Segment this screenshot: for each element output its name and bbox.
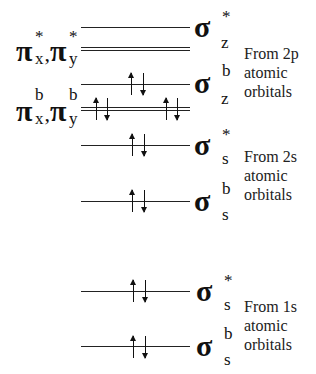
superscript: * (35, 28, 44, 45)
label-sigma-1s-antibonding: σ * s (196, 276, 212, 306)
label-sigma-z-bonding: σ b z (194, 68, 210, 98)
level-sigma-1s-antibonding (81, 291, 190, 292)
sigma-symbol: σ (196, 274, 212, 307)
electron-down-arrow-icon (143, 73, 144, 95)
superscript: b (224, 325, 233, 342)
superscript: * (224, 272, 233, 289)
subscript: y (69, 50, 78, 67)
electron-down-arrow-icon (144, 134, 145, 156)
pi-x-bonding: π b x (16, 96, 32, 126)
pi-y-antibonding: π * y (50, 36, 66, 66)
group-label-line: atomic (244, 166, 297, 185)
sigma-symbol: σ (194, 128, 210, 161)
pi-symbol: π (50, 94, 66, 127)
subscript: s (222, 206, 229, 223)
group-label-line: atomic (244, 63, 299, 82)
subscript: s (222, 150, 229, 167)
label-pi-antibonding: π * x , π * y (16, 36, 80, 66)
group-label-line: From 2p (244, 44, 299, 63)
electron-up-arrow-icon (133, 280, 134, 302)
electron-up-arrow-icon (133, 336, 134, 358)
level-sigma-2s-antibonding (81, 145, 190, 146)
group-label-2s: From 2s atomic orbitals (244, 147, 297, 204)
pi-x-antibonding: π * x (16, 36, 32, 66)
subscript: x (35, 50, 44, 67)
sigma-symbol: σ (194, 10, 210, 43)
electron-up-arrow-icon (166, 98, 167, 120)
group-label-line: orbitals (244, 82, 299, 101)
superscript: * (69, 28, 78, 45)
superscript: * (222, 126, 231, 143)
superscript: * (222, 8, 231, 25)
label-sigma-1s-bonding: σ b s (196, 331, 212, 361)
subscript: z (221, 90, 229, 107)
electron-up-arrow-icon (132, 134, 133, 156)
subscript: y (69, 110, 78, 127)
subscript: x (35, 110, 44, 127)
pi-symbol: π (16, 94, 32, 127)
sigma-symbol: σ (194, 184, 210, 217)
group-label-line: From 2s (244, 147, 297, 166)
level-sigma-z-bonding (81, 84, 190, 85)
label-sigma-2s-antibonding: σ * s (194, 130, 210, 160)
electron-down-arrow-icon (107, 98, 108, 120)
subscript: z (221, 34, 229, 51)
electron-down-arrow-icon (177, 98, 178, 120)
subscript: s (224, 296, 231, 313)
label-sigma-z-antibonding: σ * z (194, 12, 210, 42)
group-label-line: atomic (244, 316, 297, 335)
group-label-2p: From 2p atomic orbitals (244, 44, 299, 101)
electron-down-arrow-icon (145, 336, 146, 358)
level-pi-antibonding (81, 47, 190, 48)
superscript: b (222, 180, 231, 197)
subscript: s (224, 351, 231, 368)
level-sigma-2s-bonding (81, 201, 190, 202)
pi-symbol: π (16, 34, 32, 67)
superscript: b (69, 86, 78, 103)
superscript: b (222, 62, 231, 79)
label-pi-bonding: π b x , π b y (16, 96, 80, 126)
electron-down-arrow-icon (144, 190, 145, 212)
group-label-line: orbitals (244, 185, 297, 204)
electron-up-arrow-icon (132, 190, 133, 212)
group-label-line: orbitals (244, 335, 297, 354)
group-label-1s: From 1s atomic orbitals (244, 297, 297, 354)
electron-up-arrow-icon (131, 73, 132, 95)
level-sigma-z-antibonding (81, 27, 190, 28)
level-sigma-1s-bonding (81, 346, 190, 347)
pi-y-bonding: π b y (50, 96, 66, 126)
electron-up-arrow-icon (96, 98, 97, 120)
pi-symbol: π (50, 34, 66, 67)
sigma-symbol: σ (194, 66, 210, 99)
group-label-line: From 1s (244, 297, 297, 316)
superscript: b (35, 86, 44, 103)
electron-down-arrow-icon (145, 280, 146, 302)
sigma-symbol: σ (196, 329, 212, 362)
label-sigma-2s-bonding: σ b s (194, 186, 210, 216)
